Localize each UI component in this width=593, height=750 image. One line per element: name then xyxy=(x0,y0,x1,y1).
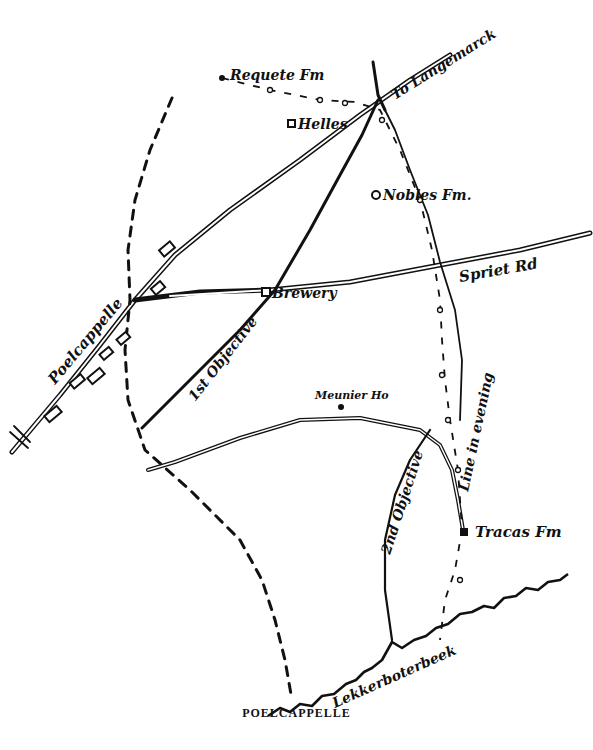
meunier-house-marker xyxy=(338,404,344,410)
label-helles: Helles xyxy=(297,116,348,132)
label-tracas-farm: Tracas Fm xyxy=(475,523,562,541)
label-second-objective: 2nd Objective xyxy=(377,448,426,557)
label-first-objective: 1st Objective xyxy=(185,313,261,404)
map-caption: POELCAPPELLE xyxy=(0,706,593,721)
label-to-langemarck: To Langemarck xyxy=(388,25,499,102)
first-objective-line xyxy=(142,100,378,428)
label-lekkerboterbeek: Lekkerboterbeek xyxy=(329,642,459,711)
helles-marker xyxy=(288,120,295,127)
brewery-marker xyxy=(262,288,270,296)
start-line-dashed xyxy=(125,98,292,700)
label-poelcappelle: Poelcappelle xyxy=(44,294,127,388)
label-meunier-house: Meunier Ho xyxy=(314,389,389,402)
helles-road xyxy=(373,62,462,420)
line-in-evening xyxy=(222,78,463,640)
trench-map: Requete Fm Helles To Langemarck Nobles F… xyxy=(0,0,593,750)
requete-farm-marker xyxy=(219,75,225,81)
nobles-farm-marker xyxy=(372,191,380,199)
lekkerboterbeek-stream xyxy=(268,574,568,716)
tracas-farm-marker xyxy=(460,528,468,536)
label-requete-farm: Requete Fm xyxy=(229,67,324,83)
label-nobles-farm: Nobles Fm. xyxy=(382,187,472,203)
label-brewery: Brewery xyxy=(271,285,337,301)
